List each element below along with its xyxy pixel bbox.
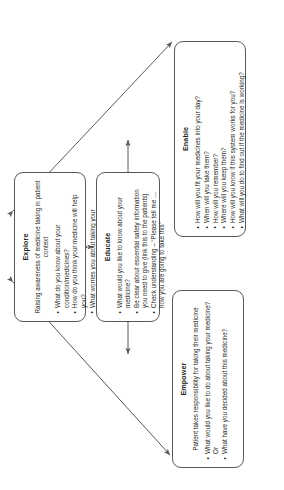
node-educate[interactable]: Educate What would you like to know abou…	[96, 172, 160, 322]
list-item: Check understanding – “Please tell me … …	[150, 180, 167, 314]
list-item: What have you decided about this medicin…	[221, 298, 229, 460]
node-educate-title: Educate	[103, 180, 112, 314]
list-item: Be clear about essential safety informat…	[133, 180, 150, 314]
node-empower[interactable]: Empower Patient takes responsibility for…	[172, 290, 244, 468]
node-explore[interactable]: Explore Raising awareness of medicine ta…	[14, 172, 86, 322]
node-explore-title: Explore	[21, 180, 30, 314]
list-item: How will you know if this system works f…	[229, 49, 237, 229]
diagram-canvas: Explore Raising awareness of medicine ta…	[0, 0, 284, 490]
node-enable-bullets: How will you fit your medicines into you…	[194, 49, 246, 229]
list-item: How will you fit your medicines into you…	[194, 49, 202, 229]
node-enable-title: Enable	[181, 49, 190, 229]
node-empower-subtitle: Patient takes responsibility for taking …	[192, 298, 200, 460]
node-explore-subtitle: Raising awareness of medicine taking in …	[34, 180, 50, 314]
diagram-surface: Explore Raising awareness of medicine ta…	[0, 0, 284, 490]
node-enable[interactable]: Enable How will you fit your medicines i…	[174, 41, 246, 237]
list-item: Where will you keep them?	[220, 49, 228, 229]
list-item: What will you do to find out if the medi…	[238, 49, 246, 229]
list-item: What do you know about your condition/me…	[54, 180, 71, 314]
node-empower-title: Empower	[179, 298, 188, 460]
node-educate-bullets: What would you like to know about your m…	[116, 180, 167, 314]
list-item: What would you like to do about taking y…	[204, 298, 221, 460]
node-empower-bullets: What would you like to do about taking y…	[204, 298, 229, 460]
list-item: When will you take them?	[203, 49, 211, 229]
list-item: How will you remember?	[212, 49, 220, 229]
list-item: What would you like to know about your m…	[116, 180, 133, 314]
list-item: How do you think your medicine will help…	[71, 180, 88, 314]
